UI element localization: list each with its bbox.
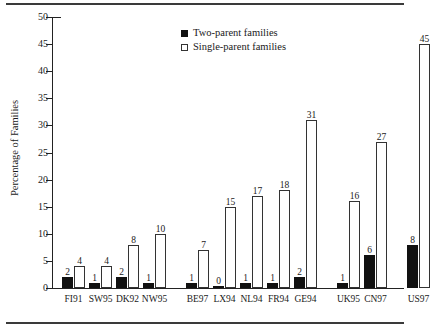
y-axis-tick-label: 5 <box>43 256 48 266</box>
top-divider-rule <box>6 3 404 5</box>
bar-single-parent: 27 <box>376 142 387 288</box>
filled-square-icon <box>181 30 188 37</box>
bar-value-label: 2 <box>119 267 124 277</box>
chart-legend: Two-parent families Single-parent famili… <box>181 26 286 54</box>
x-axis-category-label: UK95 <box>337 294 360 305</box>
bar-two-parent: 1 <box>186 283 197 288</box>
y-axis-line <box>52 17 53 288</box>
bar-value-label: 7 <box>201 240 206 250</box>
y-axis-tick-label: 45 <box>38 39 48 49</box>
bar-two-parent: 1 <box>143 283 154 288</box>
bar-single-parent: 7 <box>198 250 209 288</box>
x-axis-category-label: BE97 <box>187 294 209 305</box>
bar-two-parent: 1 <box>89 283 100 288</box>
bar-value-label: 10 <box>156 224 166 234</box>
y-axis-top-cap <box>52 17 61 18</box>
bar-value-label: 8 <box>410 235 415 245</box>
x-axis-category-label: SW95 <box>89 294 113 305</box>
bar-value-label: 31 <box>307 110 317 120</box>
x-axis-category-label: CN97 <box>364 294 387 305</box>
x-axis-category-label: DK92 <box>116 294 139 305</box>
x-axis-category-label: NW95 <box>142 294 167 305</box>
bar-two-parent: 8 <box>407 245 418 288</box>
bar-value-label: 1 <box>189 273 194 283</box>
x-axis-category-label: LX94 <box>213 294 235 305</box>
y-axis-tick-label: 40 <box>38 66 48 76</box>
y-axis-tick-label: 35 <box>38 93 48 103</box>
bar-value-label: 45 <box>420 34 430 44</box>
bar-value-label: 17 <box>253 186 263 196</box>
bar-single-parent: 45 <box>419 44 430 288</box>
bar-value-label: 16 <box>350 191 360 201</box>
bar-value-label: 1 <box>270 273 275 283</box>
legend-entry-two-parent: Two-parent families <box>181 26 286 40</box>
bar-two-parent: 0 <box>213 286 224 288</box>
bar-value-label: 0 <box>216 276 221 286</box>
bar-value-label: 1 <box>146 273 151 283</box>
bar-value-label: 4 <box>104 256 109 266</box>
bar-value-label: 15 <box>226 197 236 207</box>
y-axis-tick-label: 15 <box>38 202 48 212</box>
bar-single-parent: 8 <box>128 245 139 288</box>
bar-value-label: 27 <box>377 132 387 142</box>
bar-two-parent: 6 <box>364 255 375 288</box>
bar-value-label: 1 <box>243 273 248 283</box>
plot-area: 05101520253035404550 2414281101701511711… <box>52 17 404 288</box>
legend-entry-single-parent: Single-parent families <box>181 40 286 54</box>
bar-single-parent: 4 <box>101 266 112 288</box>
y-axis-tick-label: 0 <box>43 283 48 293</box>
y-axis-title: Percentage of Families <box>9 100 20 196</box>
bar-value-label: 2 <box>297 267 302 277</box>
x-axis-line <box>52 288 404 289</box>
y-axis-tick-label: 20 <box>38 175 48 185</box>
bar-single-parent: 4 <box>74 266 85 288</box>
open-square-icon <box>181 44 188 51</box>
bar-value-label: 18 <box>280 180 290 190</box>
bar-value-label: 1 <box>92 273 97 283</box>
bar-single-parent: 17 <box>252 196 263 288</box>
bar-two-parent: 2 <box>62 277 73 288</box>
bar-two-parent: 1 <box>337 283 348 288</box>
bar-two-parent: 2 <box>294 277 305 288</box>
bar-two-parent: 1 <box>240 283 251 288</box>
bar-single-parent: 18 <box>279 190 290 288</box>
y-axis-tick-label: 10 <box>38 229 48 239</box>
bar-value-label: 2 <box>65 267 70 277</box>
x-axis-category-label: FI91 <box>65 294 83 305</box>
legend-label-two-parent: Two-parent families <box>193 26 278 40</box>
bar-value-label: 8 <box>131 235 136 245</box>
x-axis-category-label: US97 <box>408 294 430 305</box>
bottom-divider-rule <box>6 322 404 324</box>
bar-two-parent: 1 <box>267 283 278 288</box>
bar-two-parent: 2 <box>116 277 127 288</box>
bar-single-parent: 10 <box>155 234 166 288</box>
bar-single-parent: 16 <box>349 201 360 288</box>
bar-single-parent: 31 <box>306 120 317 288</box>
bar-value-label: 6 <box>367 245 372 255</box>
x-axis-category-label: GE94 <box>294 294 316 305</box>
x-axis-category-label: FR94 <box>268 294 289 305</box>
bar-single-parent: 15 <box>225 207 236 288</box>
legend-label-single-parent: Single-parent families <box>193 40 286 54</box>
y-axis-tick-label: 50 <box>38 12 48 22</box>
y-axis-tick-label: 30 <box>38 120 48 130</box>
y-axis-tick-label: 25 <box>38 148 48 158</box>
x-axis-category-label: NL94 <box>240 294 262 305</box>
bar-value-label: 4 <box>77 256 82 266</box>
bar-value-label: 1 <box>340 273 345 283</box>
